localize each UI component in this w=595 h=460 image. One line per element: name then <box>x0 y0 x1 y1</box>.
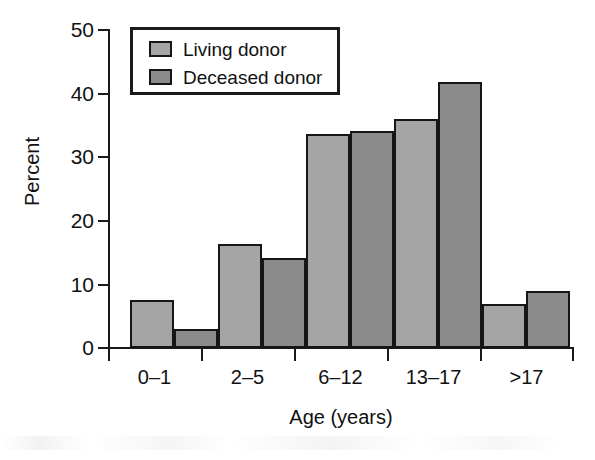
scan-artifact <box>0 436 595 450</box>
x-axis-tick-mark <box>294 349 296 361</box>
legend-swatch-living-icon <box>149 41 172 57</box>
y-axis-tick-label: 0 <box>36 337 94 358</box>
legend-label-deceased-donor: Deceased donor <box>183 68 322 87</box>
x-axis-tick-mark <box>387 349 389 361</box>
x-axis-category-label-2-5: 2–5 <box>201 366 294 389</box>
x-axis-tick-mark <box>572 349 574 361</box>
x-axis-category-label-0-1: 0–1 <box>108 366 201 389</box>
bar-deceased-13-17 <box>438 82 482 348</box>
y-axis-tick-label: 50 <box>36 19 94 40</box>
y-axis-tick-label: 30 <box>36 146 94 167</box>
x-axis-category-label-gt17: >17 <box>480 366 573 389</box>
bar-living-2-5 <box>218 244 262 348</box>
bar-deceased-6-12 <box>350 131 394 348</box>
x-axis-title: Age (years) <box>108 406 574 429</box>
y-axis-tick-label: 10 <box>36 274 94 295</box>
legend-box: Living donor Deceased donor <box>130 27 340 95</box>
legend-entry-deceased-donor: Deceased donor <box>149 63 337 91</box>
x-axis-category-label-13-17: 13–17 <box>387 366 480 389</box>
y-axis-tick-label: 40 <box>36 83 94 104</box>
legend-swatch-deceased-icon <box>149 69 172 85</box>
legend-entry-living-donor: Living donor <box>149 35 337 63</box>
x-axis-category-label-6-12: 6–12 <box>294 366 387 389</box>
y-axis-tick-mark <box>98 29 108 31</box>
bar-living-gt17 <box>482 304 526 349</box>
bar-living-6-12 <box>306 134 350 348</box>
bar-deceased-2-5 <box>262 258 306 348</box>
bar-living-0-1 <box>130 300 174 348</box>
figure-canvas: Percent 50 40 30 20 10 0 <box>0 0 595 460</box>
y-axis-tick-group: 50 40 30 20 10 0 <box>30 0 94 460</box>
y-axis-tick-mark <box>98 284 108 286</box>
bar-deceased-gt17 <box>526 291 570 348</box>
bar-living-13-17 <box>394 119 438 348</box>
y-axis-tick-mark <box>98 156 108 158</box>
bar-deceased-0-1 <box>174 329 218 348</box>
legend-label-living-donor: Living donor <box>183 40 287 59</box>
x-axis-tick-mark <box>480 349 482 361</box>
x-axis-tick-mark <box>108 349 110 361</box>
y-axis-tick-mark <box>98 347 108 349</box>
x-axis-tick-mark <box>201 349 203 361</box>
y-axis-tick-mark <box>98 220 108 222</box>
y-axis-tick-label: 20 <box>36 210 94 231</box>
y-axis-tick-mark <box>98 93 108 95</box>
